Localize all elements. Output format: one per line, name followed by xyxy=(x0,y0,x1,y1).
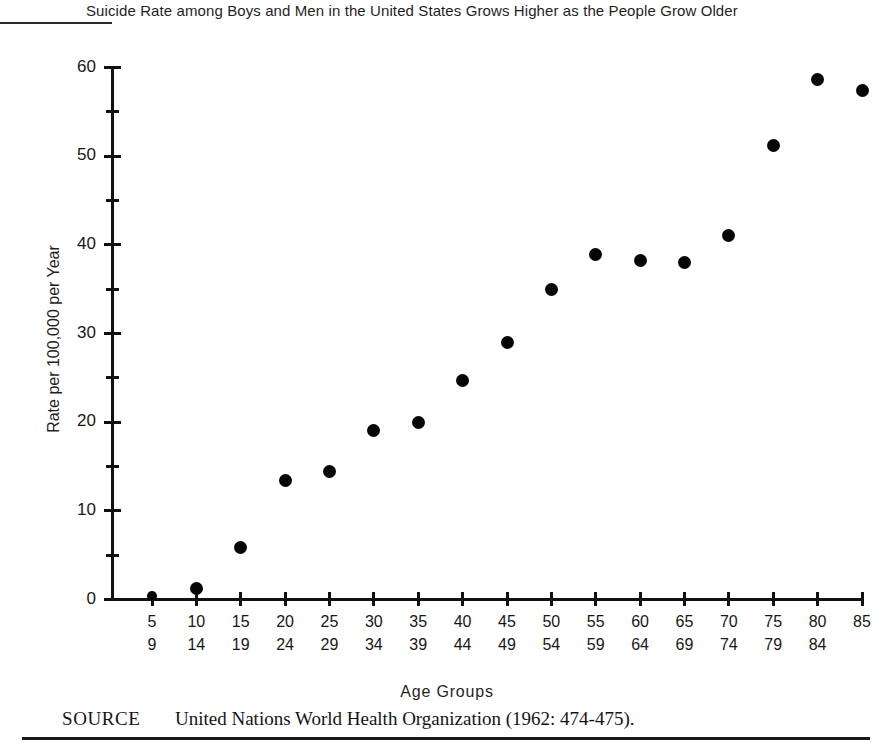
x-tick xyxy=(683,592,686,606)
x-tick xyxy=(284,592,287,606)
x-tick xyxy=(372,592,375,606)
y-axis-title: Rate per 100,000 per Year xyxy=(45,189,63,489)
x-tick-label-lower: 10 xyxy=(171,610,221,633)
x-axis-title: Age Groups xyxy=(0,683,894,701)
data-point xyxy=(501,336,514,349)
x-tick-label-upper: 44 xyxy=(438,633,488,656)
x-tick xyxy=(461,592,464,606)
y-tick-minor xyxy=(106,465,119,468)
x-tick xyxy=(594,592,597,606)
y-tick-major xyxy=(104,598,121,601)
y-tick-label: 50 xyxy=(52,145,96,165)
x-tick-label-lower: 30 xyxy=(349,610,399,633)
y-tick-minor xyxy=(106,199,119,202)
x-tick-label: 3034 xyxy=(349,610,399,656)
x-axis-line xyxy=(111,598,863,601)
x-tick-label: 2024 xyxy=(260,610,310,656)
x-tick-label-upper: 49 xyxy=(482,633,532,656)
x-tick-label-upper: 39 xyxy=(393,633,443,656)
x-tick-label-lower: 80 xyxy=(793,610,843,633)
y-tick-major xyxy=(104,243,121,246)
data-point xyxy=(811,73,824,86)
x-tick-label-upper: 59 xyxy=(571,633,621,656)
x-tick-label-upper: 34 xyxy=(349,633,399,656)
x-tick xyxy=(639,592,642,606)
data-point xyxy=(234,541,247,554)
x-tick-label-lower: 55 xyxy=(571,610,621,633)
page-rule-bottom xyxy=(22,737,870,740)
x-tick-label: 7579 xyxy=(748,610,798,656)
source-label: SOURCE xyxy=(62,708,141,730)
y-tick-minor xyxy=(106,110,119,113)
data-point xyxy=(456,374,469,387)
x-tick xyxy=(328,592,331,606)
x-tick-label-lower: 65 xyxy=(660,610,710,633)
y-tick-major xyxy=(104,155,121,158)
data-point xyxy=(767,139,780,152)
x-tick-label: 4549 xyxy=(482,610,532,656)
x-tick-label-upper: 24 xyxy=(260,633,310,656)
x-tick-label-lower: 85 xyxy=(837,610,887,633)
x-tick-label: 8084 xyxy=(793,610,843,656)
x-tick-label: 2529 xyxy=(305,610,355,656)
x-tick-label: 85 xyxy=(837,610,887,633)
y-tick-minor xyxy=(106,554,119,557)
x-tick-label: 6569 xyxy=(660,610,710,656)
y-tick-minor xyxy=(106,376,119,379)
x-tick xyxy=(417,592,420,606)
x-tick xyxy=(550,592,553,606)
data-point xyxy=(190,582,203,595)
x-tick-label-lower: 20 xyxy=(260,610,310,633)
x-tick xyxy=(772,592,775,606)
x-tick-label-upper: 54 xyxy=(526,633,576,656)
data-point xyxy=(545,283,558,296)
y-tick-label: 10 xyxy=(52,500,96,520)
x-tick-label-lower: 60 xyxy=(615,610,665,633)
x-tick-label-upper: 74 xyxy=(704,633,754,656)
x-tick-label-lower: 35 xyxy=(393,610,443,633)
data-point xyxy=(722,229,735,242)
x-tick-label-lower: 70 xyxy=(704,610,754,633)
x-tick-label: 1014 xyxy=(171,610,221,656)
y-tick-major xyxy=(104,66,121,69)
data-point xyxy=(412,416,425,429)
source-text: United Nations World Health Organization… xyxy=(175,708,635,730)
x-tick xyxy=(506,592,509,606)
x-tick-label: 5559 xyxy=(571,610,621,656)
x-tick-label-upper: 69 xyxy=(660,633,710,656)
x-tick-label-upper: 19 xyxy=(216,633,266,656)
x-tick-label: 59 xyxy=(127,610,177,656)
y-tick-major xyxy=(104,509,121,512)
x-tick-label: 3539 xyxy=(393,610,443,656)
data-point xyxy=(323,465,336,478)
x-tick-label-lower: 5 xyxy=(127,610,177,633)
x-tick-label: 7074 xyxy=(704,610,754,656)
x-tick-label-upper: 9 xyxy=(127,633,177,656)
x-tick-label: 6064 xyxy=(615,610,665,656)
x-tick-label-lower: 50 xyxy=(526,610,576,633)
scatter-plot: 0102030405060 59101415192024252930343539… xyxy=(0,0,894,755)
x-tick-label-lower: 15 xyxy=(216,610,266,633)
y-tick-major xyxy=(104,421,121,424)
data-point xyxy=(367,424,380,437)
x-tick xyxy=(727,592,730,606)
data-point xyxy=(589,248,602,261)
x-tick-label: 4044 xyxy=(438,610,488,656)
x-tick-label-upper: 14 xyxy=(171,633,221,656)
x-tick-label-upper: 64 xyxy=(615,633,665,656)
y-tick-label: 60 xyxy=(52,57,96,77)
x-tick-label-upper: 84 xyxy=(793,633,843,656)
data-point xyxy=(856,84,869,97)
data-point xyxy=(279,474,292,487)
data-point xyxy=(147,591,157,601)
x-tick xyxy=(816,592,819,606)
y-tick-label: 0 xyxy=(52,589,96,609)
data-point xyxy=(634,254,647,267)
figure-page: Suicide Rate among Boys and Men in the U… xyxy=(0,0,894,755)
x-tick xyxy=(861,592,864,606)
x-tick-label: 1519 xyxy=(216,610,266,656)
x-tick-label-lower: 25 xyxy=(305,610,355,633)
x-tick-label-lower: 75 xyxy=(748,610,798,633)
x-tick-label: 5054 xyxy=(526,610,576,656)
x-tick-label-lower: 45 xyxy=(482,610,532,633)
